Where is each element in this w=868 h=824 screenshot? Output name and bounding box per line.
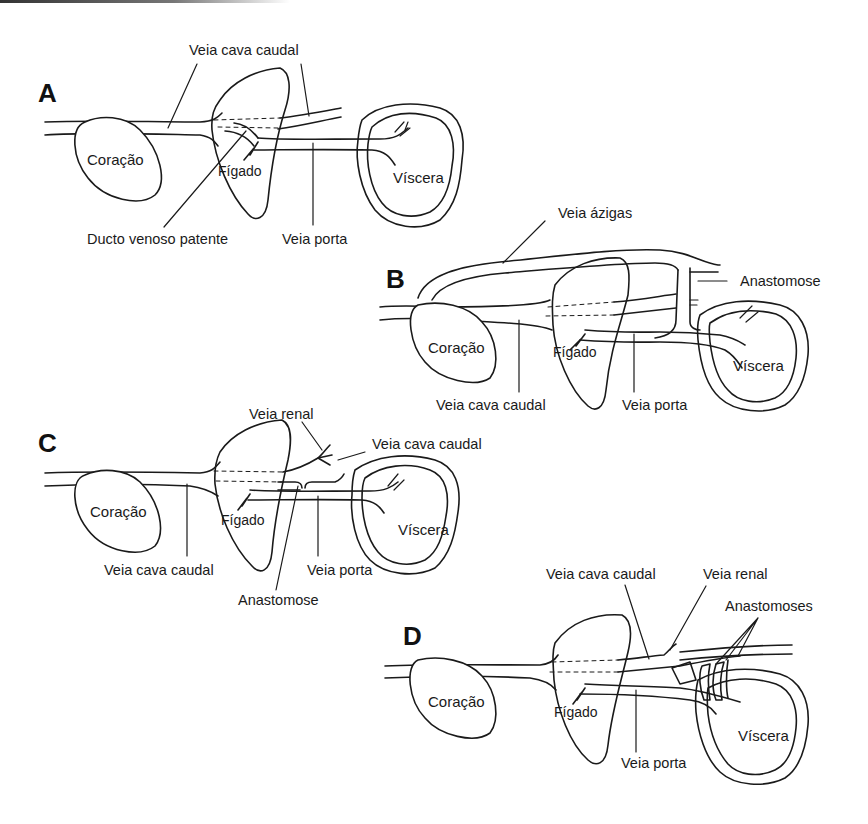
panel-b-heart-label: Coração <box>428 340 485 355</box>
panel-c-letter: C <box>38 430 57 456</box>
panel-c-liver-label: Fígado <box>221 513 265 527</box>
panel-b-portal-label: Veia porta <box>622 398 687 413</box>
panel-d-viscera-label: Víscera <box>738 728 789 743</box>
panel-a-vena-cava-label: Veia cava caudal <box>189 43 299 58</box>
panel-d-anastomoses-label: Anastomoses <box>725 599 813 614</box>
panel-a-ductus-label: Ducto venoso patente <box>87 232 228 247</box>
panel-a-liver-label: Fígado <box>218 164 262 178</box>
panel-c-heart-label: Coração <box>90 504 147 519</box>
panel-c-vena-cava-upper-label: Veia cava caudal <box>372 437 482 452</box>
panel-b-drawing <box>380 221 808 411</box>
panel-b-letter: B <box>386 266 405 292</box>
panel-a-letter: A <box>38 80 57 106</box>
panel-c-anastomosis-label: Anastomose <box>238 593 319 608</box>
panel-b-anastomosis-label: Anastomose <box>740 274 821 289</box>
panel-d-heart-label: Coração <box>428 694 485 709</box>
panel-c-renal-label: Veia renal <box>249 407 314 422</box>
panel-c-vena-cava-lower-label: Veia cava caudal <box>104 563 214 578</box>
panel-d-portal-label: Veia porta <box>621 756 686 771</box>
panel-d-renal-label: Veia renal <box>703 567 768 582</box>
panel-a-portal-label: Veia porta <box>282 232 347 247</box>
panel-b-liver-label: Fígado <box>553 345 597 359</box>
panel-c-viscera-label: Víscera <box>398 522 449 537</box>
panel-d-letter: D <box>403 623 422 649</box>
panel-d-vena-cava-label: Veia cava caudal <box>546 567 656 582</box>
panel-c-portal-label: Veia porta <box>307 563 372 578</box>
panel-d-liver-label: Fígado <box>554 705 598 719</box>
panel-b-azygos-label: Veia ázigas <box>558 206 632 221</box>
panel-a-viscera-label: Víscera <box>393 170 444 185</box>
panel-d-drawing <box>385 585 808 784</box>
panel-a-drawing <box>45 64 463 227</box>
panel-b-vena-cava-label: Veia cava caudal <box>436 398 546 413</box>
panel-b-viscera-label: Víscera <box>733 358 784 373</box>
panel-a-heart-label: Coração <box>87 152 144 167</box>
